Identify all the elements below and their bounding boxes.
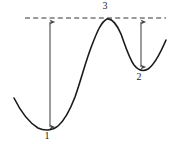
label-well-1: 1 — [39, 131, 55, 141]
label-well-2: 2 — [131, 72, 147, 82]
label-peak-3: 3 — [97, 1, 113, 11]
energy-profile-figure: 1 2 3 — [0, 0, 172, 150]
